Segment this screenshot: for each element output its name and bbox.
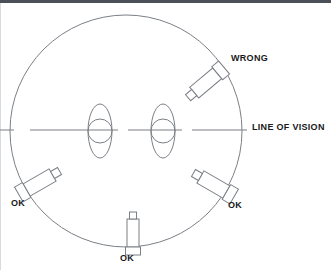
right-eye-outline: [151, 104, 175, 158]
instruments-group: [15, 61, 239, 255]
left-eye-iris: [88, 119, 112, 143]
label-ok-right: OK: [228, 200, 242, 210]
label-line-of-vision: LINE OF VISION: [252, 122, 325, 132]
instrument-ok-bottom-body: [127, 219, 139, 247]
eyes-group: [88, 104, 175, 158]
instrument-ok-left: [15, 164, 64, 202]
label-ok-left: OK: [11, 198, 25, 208]
head-placement-diagram: [0, 0, 331, 270]
label-wrong: WRONG: [231, 53, 268, 63]
instrument-ok-bottom: [126, 212, 141, 255]
right-eye-iris: [151, 119, 175, 143]
right-eye: [151, 104, 175, 158]
instrument-ok-bottom-nozzle: [130, 212, 137, 219]
left-eye: [88, 104, 112, 158]
instrument-ok-right: [189, 166, 238, 204]
head-outline-group: [10, 15, 242, 247]
label-ok-bottom: OK: [120, 253, 134, 263]
head-circle: [10, 15, 242, 247]
left-eye-outline: [88, 104, 112, 158]
instrument-wrong: [183, 61, 230, 104]
diagram-page: WRONG LINE OF VISION OK OK OK: [0, 0, 331, 270]
